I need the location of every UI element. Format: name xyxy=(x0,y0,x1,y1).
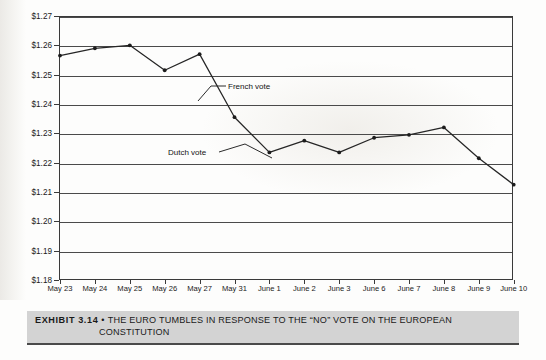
data-point xyxy=(442,126,446,130)
exhibit-caption-text: EXHIBIT 3.14 • THE EURO TUMBLES IN RESPO… xyxy=(35,315,511,338)
data-point xyxy=(407,133,411,137)
data-point xyxy=(337,151,341,155)
data-point xyxy=(128,43,132,47)
exhibit-caption-bar: EXHIBIT 3.14 • THE EURO TUMBLES IN RESPO… xyxy=(27,311,519,345)
french-vote-annotation: French vote xyxy=(228,82,270,91)
data-point xyxy=(372,136,376,140)
data-point xyxy=(163,68,167,72)
data-point xyxy=(302,139,306,143)
caption-line-1: THE EURO TUMBLES IN RESPONSE TO THE “NO”… xyxy=(108,315,452,325)
line-chart: $1.27 $1.26 $1.25 $1.24 $1.23 $1.22 $1.2… xyxy=(0,0,546,302)
series-layer xyxy=(0,0,546,302)
dutch-vote-leader-line xyxy=(219,144,272,158)
exhibit-number: EXHIBIT 3.14 xyxy=(35,315,98,325)
caption-line-2: CONSTITUTION xyxy=(35,327,511,339)
data-point xyxy=(512,183,516,187)
euro-rate-line xyxy=(60,45,514,184)
data-point xyxy=(93,46,97,50)
scanned-page: $1.27 $1.26 $1.25 $1.24 $1.23 $1.22 $1.2… xyxy=(0,0,546,360)
data-point xyxy=(58,54,62,58)
data-point xyxy=(233,115,237,119)
data-point xyxy=(477,156,481,160)
data-point-markers xyxy=(58,43,516,186)
data-point xyxy=(268,151,272,155)
dutch-vote-annotation: Dutch vote xyxy=(168,148,206,157)
data-point xyxy=(198,52,202,56)
